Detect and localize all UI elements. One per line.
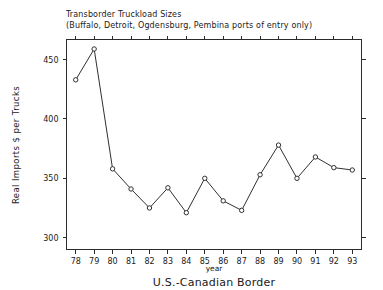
data-point [221,199,225,203]
x-tick-label: 78 [71,257,81,266]
line-chart: Transborder Truckload Sizes (Buffalo, De… [0,0,383,290]
data-point [147,206,151,210]
x-tick-label: 79 [89,257,99,266]
data-point [129,187,133,191]
x-tick-label: 87 [237,257,247,266]
data-point [92,47,96,51]
y-axis-label: Real Imports $ per Trucks [11,86,21,204]
data-point [276,143,280,147]
plot-frame [67,40,362,250]
data-point [295,176,299,180]
x-axis-ticks [76,36,353,254]
x-tick-label: 89 [273,257,283,266]
data-point [110,167,114,171]
x-tick-label: 88 [255,257,265,266]
y-tick-label: 450 [43,56,58,65]
chart-container: Transborder Truckload Sizes (Buffalo, De… [0,0,383,290]
x-tick-label: 91 [310,257,320,266]
chart-caption: U.S.-Canadian Border [153,276,276,289]
data-point [239,208,243,212]
data-point [74,78,78,82]
data-point [313,155,317,159]
x-tick-label: 84 [181,257,191,266]
x-tick-label: 93 [347,257,357,266]
data-point [332,165,336,169]
x-tick-label: 90 [292,257,302,266]
y-axis-ticks [63,60,366,238]
data-point [166,186,170,190]
chart-title: Transborder Truckload Sizes [65,10,181,19]
x-tick-label: 81 [126,257,136,266]
x-tick-label: 83 [163,257,173,266]
y-tick-label: 300 [43,234,58,243]
x-tick-label: 92 [329,257,339,266]
x-axis-label: year [206,264,224,273]
data-point [184,211,188,215]
y-axis-tick-labels: 300350400450 [43,56,58,243]
data-point [350,168,354,172]
y-tick-label: 400 [43,115,58,124]
x-tick-label: 80 [108,257,118,266]
chart-subtitle: (Buffalo, Detroit, Ogdensburg, Pembina p… [66,21,312,30]
data-series-line [76,49,353,213]
x-tick-label: 82 [144,257,154,266]
data-point [258,173,262,177]
data-point [203,176,207,180]
y-tick-label: 350 [43,174,58,183]
